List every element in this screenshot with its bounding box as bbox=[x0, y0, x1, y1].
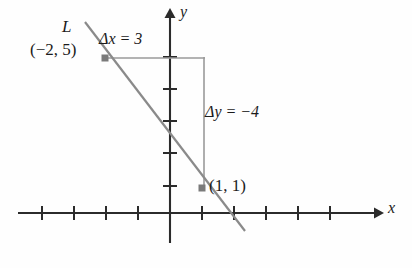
line-l bbox=[85, 22, 245, 231]
point-marker-a bbox=[102, 55, 109, 62]
y-axis-arrowhead bbox=[165, 8, 176, 18]
delta-x-label: Δx = 3 bbox=[99, 31, 142, 47]
point-marker-b bbox=[199, 185, 206, 192]
slope-diagram-figure: L (−2, 5) Δx = 3 Δy = −4 (1, 1) y x bbox=[0, 0, 412, 268]
line-label-l: L bbox=[62, 18, 71, 35]
x-axis bbox=[18, 206, 384, 220]
delta-y-label: Δy = −4 bbox=[205, 104, 259, 120]
delta-connectors bbox=[105, 57, 205, 188]
x-axis-label: x bbox=[388, 200, 395, 216]
y-axis-label: y bbox=[180, 4, 187, 20]
point-b-label: (1, 1) bbox=[209, 177, 246, 194]
point-a-label: (−2, 5) bbox=[30, 41, 76, 58]
x-axis-arrowhead bbox=[374, 208, 384, 219]
